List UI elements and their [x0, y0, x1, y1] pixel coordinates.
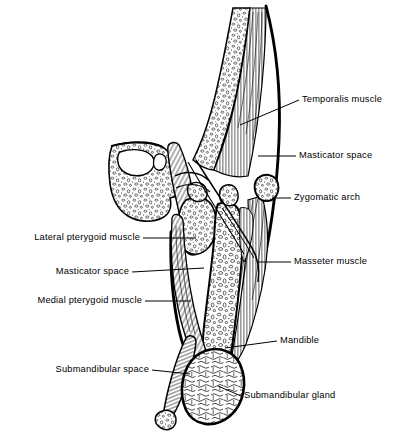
anatomy-figure: Temporalis muscle Masticator space Zygom…	[0, 0, 402, 435]
label-submandibular-space: Submandibular space	[4, 364, 149, 375]
label-mandible: Mandible	[280, 335, 319, 346]
zygomatic-arch	[255, 175, 279, 201]
label-lateral-pterygoid-muscle: Lateral pterygoid muscle	[4, 232, 140, 243]
label-masseter-muscle: Masseter muscle	[294, 256, 367, 267]
label-medial-pterygoid-muscle: Medial pterygoid muscle	[4, 295, 142, 306]
label-masticator-space-left: Masticator space	[4, 266, 129, 277]
label-temporalis-muscle: Temporalis muscle	[302, 94, 382, 105]
label-zygomatic-arch: Zygomatic arch	[294, 192, 360, 203]
label-masticator-space-right: Masticator space	[299, 150, 372, 161]
label-submandibular-gland: Submandibular gland	[244, 390, 335, 401]
submandibular-gland	[182, 349, 244, 424]
